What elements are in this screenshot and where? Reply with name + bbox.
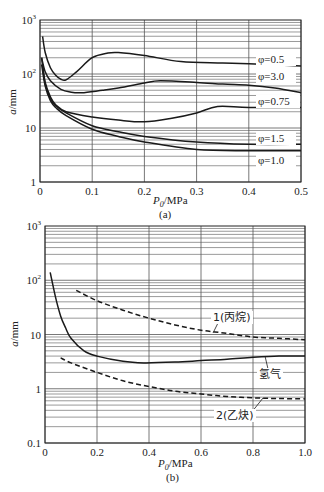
chart-panel-a: 00.10.20.30.40.5110102103φ=0.5φ=3.0φ=0.7… xyxy=(22,13,309,197)
xlabel-a-unit: /MPa xyxy=(164,194,188,206)
ylabel-a-unit: /mm xyxy=(6,89,18,109)
caption-b: (b) xyxy=(166,471,179,483)
x-tick-label: 0.4 xyxy=(142,446,156,458)
xlabel-a-var: P xyxy=(153,194,160,206)
series-label: 1(丙烷) xyxy=(213,310,251,324)
xlabel-b-var: P xyxy=(158,457,165,469)
ylabel-b: a/mm xyxy=(8,314,20,354)
xlabel-b: P0/MPa xyxy=(158,457,193,472)
y-tick-label: 0.1 xyxy=(27,437,41,449)
series-label: φ=1.5 xyxy=(258,132,285,144)
x-tick-label: 0.8 xyxy=(246,446,260,458)
x-tick-label: 0.6 xyxy=(194,446,208,458)
y-tick-label: 10 xyxy=(30,329,42,341)
y-tick-label: 1 xyxy=(36,383,42,395)
x-tick-label: 0 xyxy=(37,185,43,197)
x-tick-label: 0 xyxy=(42,446,48,458)
series-line xyxy=(50,272,305,363)
ylabel-b-unit: /mm xyxy=(8,321,20,341)
x-tick-label: 0.5 xyxy=(294,185,308,197)
y-tick-label: 103 xyxy=(22,13,37,26)
ylabel-a-var: a xyxy=(6,109,18,115)
xlabel-a: P0/MPa xyxy=(153,194,188,209)
figure: 00.10.20.30.40.5110102103φ=0.5φ=3.0φ=0.7… xyxy=(0,0,324,492)
series-label: φ=0.75 xyxy=(258,95,290,107)
x-tick-label: 1.0 xyxy=(298,446,312,458)
y-tick-label: 10 xyxy=(25,122,37,134)
caption-a: (a) xyxy=(159,208,171,220)
series-label: φ=0.5 xyxy=(258,53,285,65)
series-label: φ=3.0 xyxy=(258,70,285,82)
y-tick-label: 103 xyxy=(27,219,42,232)
y-tick-label: 102 xyxy=(27,273,42,286)
x-tick-label: 0.2 xyxy=(90,446,104,458)
series-line xyxy=(76,290,305,339)
series-label: φ=1.0 xyxy=(258,154,285,166)
y-tick-label: 102 xyxy=(22,67,37,80)
ylabel-b-var: a xyxy=(8,341,20,347)
ylabel-a: a/mm xyxy=(6,82,18,122)
chart-panel-b: 00.20.40.60.81.00.11101021031(丙烷)氢气2(乙炔) xyxy=(27,219,313,458)
x-tick-label: 0.2 xyxy=(138,185,152,197)
x-tick-label: 0.1 xyxy=(85,185,99,197)
series-label: 2(乙炔) xyxy=(216,409,254,422)
x-tick-label: 0.4 xyxy=(242,185,256,197)
y-tick-label: 1 xyxy=(31,176,37,188)
series-label: 氢气 xyxy=(259,367,281,381)
xlabel-b-unit: /MPa xyxy=(169,457,193,469)
x-tick-label: 0.3 xyxy=(190,185,204,197)
